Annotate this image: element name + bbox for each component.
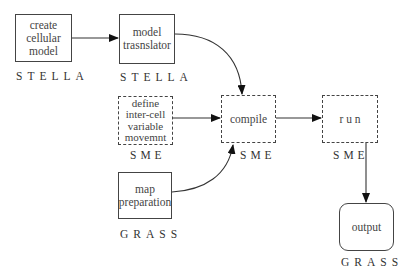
- node-line: movemnt: [125, 132, 167, 144]
- node-line: cellular: [26, 32, 60, 45]
- node-line: compile: [230, 113, 267, 126]
- tool-label-grass: GRASS: [120, 228, 182, 240]
- node-run: r u n: [322, 95, 378, 143]
- node-line: trasnslator: [123, 39, 171, 52]
- node-compile: compile: [221, 95, 276, 143]
- edge-translator-to-compile: [175, 34, 242, 94]
- edge-map-to-compile: [172, 145, 233, 192]
- node-line: map: [119, 183, 171, 196]
- node-create-cellular-model: create cellular model: [15, 14, 72, 62]
- tool-label-grass: GRASS: [341, 256, 403, 268]
- node-map-preparation: map preparation: [118, 172, 172, 219]
- tool-label-sme: SME: [333, 149, 369, 161]
- node-model-translator: model trasnslator: [119, 14, 175, 64]
- tool-label-stella: STELLA: [16, 70, 89, 82]
- node-line: output: [352, 221, 381, 234]
- node-line: preparation: [119, 196, 171, 209]
- node-output: output: [339, 203, 394, 251]
- node-line: model: [123, 26, 171, 39]
- node-define-inter-cell-movement: define inter-cell variable movemnt: [118, 96, 173, 145]
- node-line: model: [26, 45, 60, 58]
- tool-label-sme: SME: [240, 149, 276, 161]
- node-line: r u n: [339, 113, 360, 126]
- tool-label-sme: SME: [130, 149, 166, 161]
- node-line: inter-cell: [125, 109, 167, 121]
- tool-label-stella: STELLA: [120, 71, 193, 83]
- node-line: create: [26, 19, 60, 32]
